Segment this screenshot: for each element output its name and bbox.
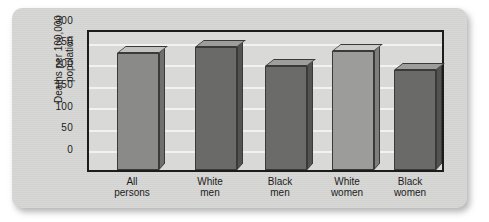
screenshot-root: Deaths per 100,000 population 0 50 100 1… [0, 0, 489, 222]
x-label-line2: women [378, 187, 442, 198]
x-label-line1: White [315, 176, 379, 187]
plot-area [87, 30, 444, 172]
bar-top-face [394, 63, 445, 70]
chart-card: Deaths per 100,000 population 0 50 100 1… [12, 8, 467, 208]
y-tick-label-100: 100 [33, 101, 73, 112]
y-tick-label-300: 300 [33, 15, 73, 26]
x-label-line2: women [315, 187, 379, 198]
bar-all-persons [117, 53, 159, 170]
x-label-white-women: White women [315, 176, 379, 198]
x-label-line2: persons [102, 187, 162, 198]
bar-side-face [237, 40, 243, 170]
bar-body [117, 53, 159, 170]
bar-body [195, 47, 237, 170]
bar-top-face [265, 59, 316, 66]
bar-white-women [332, 51, 374, 170]
x-label-all-persons: All persons [102, 176, 162, 198]
bar-front-face [265, 66, 307, 170]
bars-layer [89, 32, 442, 170]
x-label-white-men: White men [180, 176, 240, 198]
bar-top-face [195, 40, 246, 47]
y-tick-label-50: 50 [33, 122, 73, 133]
bar-black-women [394, 70, 436, 170]
bar-top-face [332, 44, 383, 51]
bar-front-face [195, 47, 237, 170]
bar-body [265, 66, 307, 170]
bar-side-face [436, 63, 442, 170]
x-label-line1: Black [250, 176, 310, 187]
bar-side-face [159, 46, 165, 170]
x-label-line1: White [180, 176, 240, 187]
bar-body [332, 51, 374, 170]
bar-front-face [117, 53, 159, 170]
bar-front-face [394, 70, 436, 170]
bar-side-face [374, 44, 380, 170]
y-tick-label-0: 0 [33, 144, 73, 155]
bar-front-face [332, 51, 374, 170]
bar-body [394, 70, 436, 170]
bar-black-men [265, 66, 307, 170]
y-tick-label-200: 200 [33, 58, 73, 69]
x-label-line2: men [180, 187, 240, 198]
x-label-black-men: Black men [250, 176, 310, 198]
y-tick-label-250: 250 [33, 36, 73, 47]
bar-top-face [117, 46, 168, 53]
y-tick-label-150: 150 [33, 79, 73, 90]
x-label-black-women: Black women [378, 176, 442, 198]
x-label-line1: Black [378, 176, 442, 187]
bar-side-face [307, 59, 313, 170]
bar-white-men [195, 47, 237, 170]
x-label-line1: All [102, 176, 162, 187]
x-label-line2: men [250, 187, 310, 198]
